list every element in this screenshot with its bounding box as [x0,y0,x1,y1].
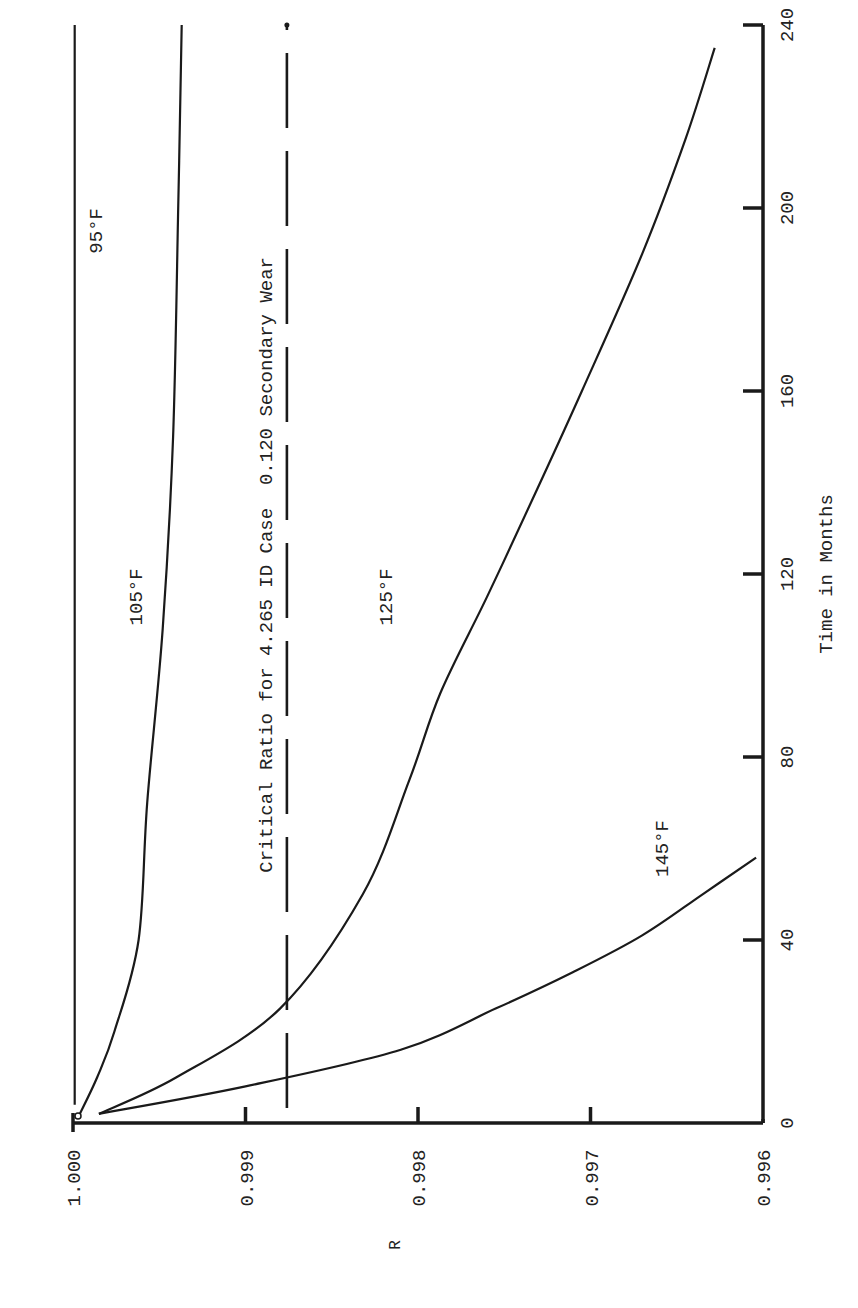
r-tick-label: 1.000 [64,1149,86,1206]
r-tick-label: 0.999 [237,1149,259,1206]
time-tick-label: 40 [777,929,799,952]
critical-ratio-endpoint [284,23,289,28]
curve-145f [99,858,756,1114]
curves [75,25,756,1119]
time-tick-label: 240 [777,8,799,42]
time-ticks: 04080120160200240 [743,8,799,1129]
curve-125f [99,48,715,1114]
x-axis-label: Time in Months [816,494,838,654]
chart: 04080120160200240 1.0000.9990.9980.9970.… [0,0,858,1308]
curve-label-145f: 145°F [652,820,674,877]
critical-ratio-line [284,23,289,1109]
curve-labels: 95°F105°F125°F145°F [86,208,674,877]
r-tick-label: 0.997 [582,1149,604,1206]
time-tick-label: 0 [777,1117,799,1128]
curve-label-125f: 125°F [376,568,398,625]
critical-ratio-label: Critical Ratio for 4.265 ID Case 0.120 S… [256,257,278,873]
time-tick-label: 200 [777,191,799,225]
y-axis-label: R [387,1240,405,1250]
axes [73,25,763,1123]
curve-label-95f: 95°F [86,208,108,254]
time-tick-label: 80 [777,746,799,769]
time-tick-label: 160 [777,374,799,408]
r-tick-label: 0.996 [754,1149,776,1206]
origin-marker [75,1113,81,1119]
time-tick-label: 120 [777,557,799,591]
curve-label-105f: 105°F [126,568,148,625]
r-tick-label: 0.998 [409,1149,431,1206]
